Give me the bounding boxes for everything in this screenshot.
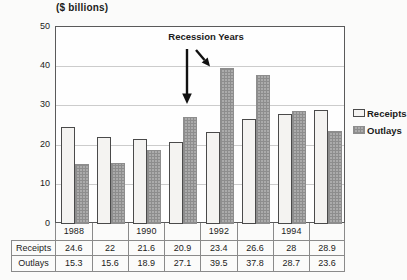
bar-receipts-1995 [314, 110, 328, 224]
table-cell-year-blank [164, 223, 200, 241]
gridline-30 [56, 105, 344, 106]
legend-item-receipts: Receipts [353, 107, 407, 119]
y-tick-label-10: 10 [16, 178, 50, 189]
table-cell-outlays-1993: 37.8 [237, 256, 273, 272]
y-tick-label-40: 40 [16, 60, 50, 71]
table-cell-outlays-1989: 15.6 [92, 256, 128, 272]
table-cell-year-blank [92, 223, 128, 241]
bar-outlays-1992 [220, 68, 234, 224]
chart-figure: ($ billions) 01020304050 Recession Years… [0, 0, 407, 280]
table-cell-receipts-1988: 24.6 [55, 241, 91, 257]
bar-outlays-1990 [147, 150, 161, 224]
plot-area [55, 26, 345, 223]
table-corner-spacer [11, 223, 55, 241]
bar-outlays-1988 [75, 164, 89, 224]
table-cell-year-1994: 1994 [273, 223, 309, 241]
bar-receipts-1993 [242, 119, 256, 224]
table-cell-outlays-1988: 15.3 [55, 256, 91, 272]
bar-outlays-1993 [256, 75, 270, 224]
legend-label-outlays: Outlays [367, 125, 402, 136]
table-cell-year-1992: 1992 [200, 223, 236, 241]
legend-swatch-receipts-icon [353, 109, 365, 117]
legend-item-outlays: Outlays [353, 124, 407, 136]
table-cell-receipts-1995: 28.9 [309, 241, 345, 257]
table-cell-receipts-1990: 21.6 [128, 241, 164, 257]
table-cell-year-blank [237, 223, 273, 241]
legend-label-receipts: Receipts [367, 108, 407, 119]
table-cell-receipts-1993: 26.6 [237, 241, 273, 257]
annotation-label: Recession Years [160, 31, 252, 42]
table-cell-receipts-1991: 20.9 [164, 241, 200, 257]
y-tick-label-20: 20 [16, 139, 50, 150]
bar-outlays-1995 [328, 131, 342, 224]
bar-outlays-1991 [183, 117, 197, 224]
table-cell-receipts-1989: 22 [92, 241, 128, 257]
bar-receipts-1989 [97, 137, 111, 224]
gridline-40 [56, 66, 344, 67]
table-cell-year-blank [309, 223, 345, 241]
bar-receipts-1992 [206, 132, 220, 224]
table-cell-outlays-1994: 28.7 [273, 256, 309, 272]
table-cell-outlays-1991: 27.1 [164, 256, 200, 272]
table-row-label-outlays: Outlays [11, 256, 55, 272]
bar-receipts-1994 [278, 114, 292, 224]
legend: Receipts Outlays [353, 107, 407, 141]
table-cell-outlays-1992: 39.5 [200, 256, 236, 272]
table-cell-year-1990: 1990 [128, 223, 164, 241]
chart-title: ($ billions) [56, 2, 108, 13]
bar-outlays-1994 [292, 111, 306, 224]
table-cell-year-1988: 1988 [55, 223, 91, 241]
bar-receipts-1991 [169, 142, 183, 224]
legend-swatch-outlays-icon [353, 126, 365, 134]
table-cell-receipts-1992: 23.4 [200, 241, 236, 257]
y-tick-label-30: 30 [16, 99, 50, 110]
table-cell-outlays-1990: 18.9 [128, 256, 164, 272]
table-row-label-receipts: Receipts [11, 241, 55, 257]
bar-receipts-1990 [133, 139, 147, 224]
bar-receipts-1988 [61, 127, 75, 224]
data-table: 1988199019921994Receipts24.62221.620.923… [11, 223, 347, 272]
bar-outlays-1989 [111, 163, 125, 224]
y-tick-label-50: 50 [16, 21, 50, 32]
table-cell-receipts-1994: 28 [273, 241, 309, 257]
table-cell-outlays-1995: 23.6 [309, 256, 345, 272]
